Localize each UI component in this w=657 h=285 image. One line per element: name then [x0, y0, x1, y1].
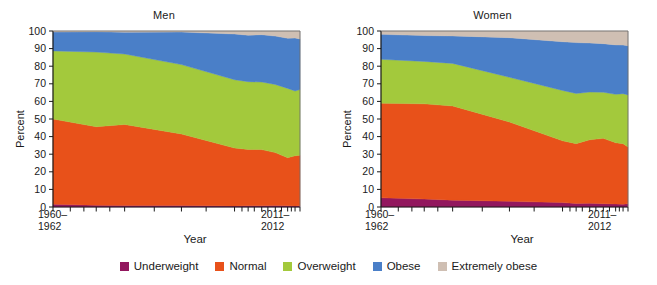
legend: UnderweightNormalOverweightObeseExtremel…	[0, 256, 657, 276]
women-y-tick-label-10: 10	[362, 183, 374, 195]
x-tick-men-last-line1: 2011–	[261, 209, 289, 221]
x-tick-women-first-line1: 1960–	[365, 209, 394, 221]
men-y-tick-label-80: 80	[34, 60, 46, 72]
legend-item-obese[interactable]: Obese	[373, 260, 421, 272]
x-tick-women-last-line1: 2011–	[588, 209, 616, 221]
figure-bmi-weight-categories: Men Percent 0102030405060708090100 1960–…	[0, 0, 657, 285]
legend-swatch-obese	[373, 262, 382, 271]
men-y-tick-label-100: 100	[28, 25, 46, 37]
women-y-tick-label-40: 40	[362, 130, 374, 142]
x-tick-label-men-first: 1960– 1962	[38, 209, 67, 232]
x-tick-label-women-first: 1960– 1962	[365, 209, 394, 232]
women-y-tick-label-90: 90	[362, 42, 374, 54]
legend-label-extremely-obese: Extremely obese	[452, 260, 538, 272]
x-tick-women-first-line2: 1962	[365, 221, 394, 233]
panel-men: Men Percent 0102030405060708090100 1960–…	[0, 0, 328, 250]
legend-label-underweight: Underweight	[134, 260, 199, 272]
x-axis-label-women: Year	[442, 233, 602, 245]
legend-label-normal: Normal	[229, 260, 266, 272]
legend-swatch-overweight	[283, 262, 292, 271]
plot-area-women: 0102030405060708090100	[328, 0, 657, 230]
legend-item-extremely-obese[interactable]: Extremely obese	[438, 260, 538, 272]
x-axis-label-men: Year	[115, 233, 275, 245]
panel-title-men: Men	[0, 9, 328, 21]
y-axis-label-women: Percent	[341, 110, 353, 148]
women-y-tick-label-100: 100	[356, 25, 374, 37]
women-y-tick-label-80: 80	[362, 60, 374, 72]
legend-swatch-normal	[215, 262, 224, 271]
plot-area-men: 0102030405060708090100	[0, 0, 328, 230]
men-y-tick-label-20: 20	[34, 165, 46, 177]
men-y-tick-label-40: 40	[34, 130, 46, 142]
men-y-tick-label-10: 10	[34, 183, 46, 195]
legend-item-normal[interactable]: Normal	[215, 260, 266, 272]
men-y-tick-label-50: 50	[34, 113, 46, 125]
x-tick-men-first-line2: 1962	[38, 221, 67, 233]
legend-item-overweight[interactable]: Overweight	[283, 260, 355, 272]
women-y-tick-label-20: 20	[362, 165, 374, 177]
men-y-tick-label-60: 60	[34, 95, 46, 107]
women-y-tick-label-70: 70	[362, 77, 374, 89]
y-axis-label-men: Percent	[14, 110, 26, 148]
legend-swatch-underweight	[120, 262, 129, 271]
women-y-tick-label-30: 30	[362, 148, 374, 160]
x-tick-label-women-last: 2011– 2012	[588, 209, 616, 232]
women-y-tick-label-60: 60	[362, 95, 374, 107]
x-tick-women-last-line2: 2012	[588, 221, 616, 233]
men-y-tick-label-70: 70	[34, 77, 46, 89]
panel-title-women: Women	[328, 9, 657, 21]
men-y-tick-label-30: 30	[34, 148, 46, 160]
x-tick-label-men-last: 2011– 2012	[261, 209, 289, 232]
legend-swatch-extremely-obese	[438, 262, 447, 271]
women-y-tick-label-50: 50	[362, 113, 374, 125]
legend-label-overweight: Overweight	[297, 260, 355, 272]
men-y-tick-label-90: 90	[34, 42, 46, 54]
legend-item-underweight[interactable]: Underweight	[120, 260, 199, 272]
x-tick-men-last-line2: 2012	[261, 221, 289, 233]
legend-label-obese: Obese	[387, 260, 421, 272]
x-tick-men-first-line1: 1960–	[38, 209, 67, 221]
